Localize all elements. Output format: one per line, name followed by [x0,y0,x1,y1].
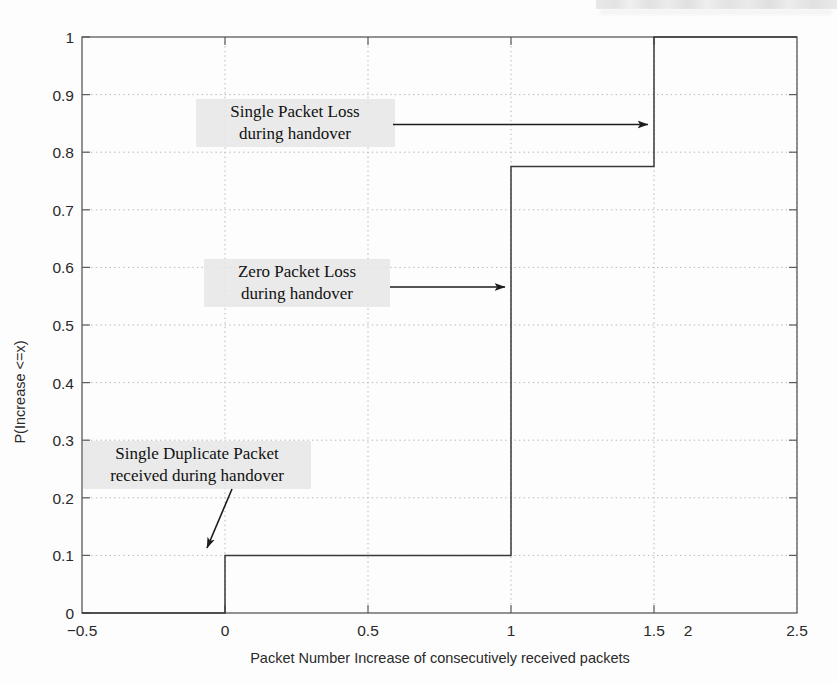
y-tick-label: 1 [65,29,74,46]
y-tick-label: 0.1 [52,547,74,564]
x-tick-label: 2 [684,622,693,639]
x-tick-label: −0.5 [67,622,98,639]
x-tick-label: 1.5 [643,622,665,639]
x-tick-label: 2.5 [786,622,808,639]
cdf-step-chart: 0 0.1 0.2 0.3 0.4 0.5 0.6 0.7 0.8 0.9 1 … [0,0,837,683]
annotation-arrow-line [207,489,232,548]
annotation-line: during handover [241,284,353,303]
annotation-zero-packet-loss: Zero Packet Loss during handover [204,259,505,307]
y-tick-label: 0.8 [52,144,74,161]
annotation-line: Single Duplicate Packet [115,444,279,463]
annotation-line: received during handover [110,466,284,485]
figure-canvas: 0 0.1 0.2 0.3 0.4 0.5 0.6 0.7 0.8 0.9 1 … [0,0,837,683]
x-tick-label: 0.5 [357,622,379,639]
y-tick-label: 0.2 [52,490,74,507]
y-tick-label: 0.3 [52,432,74,449]
x-tick-labels: −0.5 0 0.5 1 1.5 2 2 2.5 [67,622,808,639]
y-tick-label: 0.9 [52,87,74,104]
y-tick-label: 0.5 [52,317,74,334]
x-tick-label: 1 [507,622,516,639]
annotation-single-duplicate-packet: Single Duplicate Packet received during … [83,441,311,548]
x-tick-label: 0 [221,622,230,639]
y-tick-label: 0.6 [52,259,74,276]
y-tick-label: 0.7 [52,202,74,219]
annotation-single-packet-loss: Single Packet Loss during handover [196,99,648,147]
grid-lines [82,37,797,613]
y-axis-title: P(Increase <=x) [12,340,28,443]
annotation-line: Zero Packet Loss [238,262,356,281]
annotation-line: Single Packet Loss [230,102,359,121]
y-tick-label: 0.4 [52,375,74,392]
y-tick-label: 0 [65,605,74,622]
y-tick-labels: 0 0.1 0.2 0.3 0.4 0.5 0.6 0.7 0.8 0.9 1 [52,29,74,622]
x-axis-title: Packet Number Increase of consecutively … [250,650,630,666]
annotation-line: during handover [239,124,351,143]
